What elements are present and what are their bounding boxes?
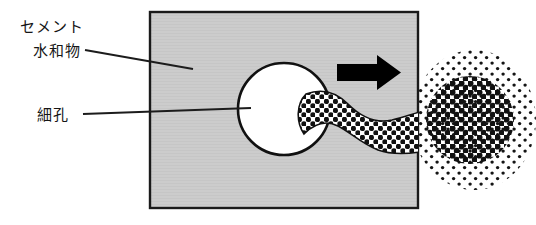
label-cement-hydrate-line2: 水和物 [33,42,81,60]
diffusion-core [426,76,514,164]
diagram-canvas: セメント 水和物 細孔 [0,0,536,225]
schematic-diagram: セメント 水和物 細孔 [0,0,536,225]
label-pore: 細孔 [37,106,69,124]
label-cement-hydrate-line1: セメント [20,18,84,36]
